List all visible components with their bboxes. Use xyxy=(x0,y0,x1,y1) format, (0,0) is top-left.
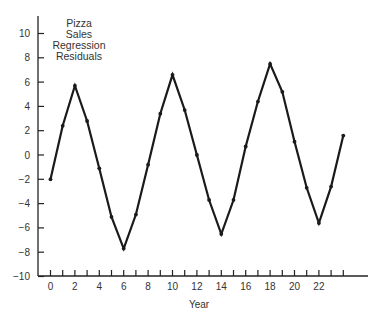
data-point xyxy=(61,124,65,128)
y-tick-label: 10 xyxy=(19,28,31,39)
x-tick-label: 20 xyxy=(289,281,301,292)
data-point xyxy=(158,112,162,116)
x-axis-label: Year xyxy=(189,299,210,310)
residuals-line-chart: 1086420−2−4−6−8−10 0246810121416182022 P… xyxy=(0,0,387,313)
y-tick-label: 8 xyxy=(24,52,30,63)
data-point xyxy=(134,213,138,217)
x-tick-label: 10 xyxy=(167,281,179,292)
y-tick-label: 6 xyxy=(24,77,30,88)
y-tick-label: −8 xyxy=(19,247,31,258)
chart-title-line: Residuals xyxy=(56,50,102,62)
data-point xyxy=(97,166,101,170)
x-tick-label: 16 xyxy=(240,281,252,292)
data-point xyxy=(207,198,211,202)
data-point xyxy=(146,163,150,167)
y-tick-label: 2 xyxy=(24,125,30,136)
data-point xyxy=(85,119,89,123)
data-point xyxy=(305,186,309,190)
data-point xyxy=(183,108,187,112)
y-tick-label: 0 xyxy=(24,150,30,161)
x-tick-label: 2 xyxy=(72,281,78,292)
y-tick-label: −10 xyxy=(13,271,30,282)
data-point xyxy=(219,232,223,236)
x-tick-label: 8 xyxy=(145,281,151,292)
data-point xyxy=(195,153,199,157)
data-point xyxy=(73,84,77,88)
data-point xyxy=(329,185,333,189)
data-point xyxy=(171,73,175,77)
y-axis: 1086420−2−4−6−8−10 xyxy=(13,16,44,282)
data-point xyxy=(232,198,236,202)
data-point xyxy=(317,221,321,225)
data-point-markers xyxy=(49,62,346,250)
y-tick-label: −2 xyxy=(19,174,31,185)
x-tick-label: 6 xyxy=(121,281,127,292)
x-tick-label: 0 xyxy=(48,281,54,292)
data-point xyxy=(280,90,284,94)
x-tick-label: 22 xyxy=(313,281,325,292)
y-tick-label: 4 xyxy=(24,101,30,112)
x-axis: 0246810121416182022 xyxy=(38,270,368,292)
data-point xyxy=(122,247,126,251)
data-point xyxy=(256,100,260,104)
chart-title: PizzaSalesRegressionResiduals xyxy=(52,17,105,62)
data-point xyxy=(49,177,53,181)
data-point xyxy=(244,145,248,149)
x-tick-label: 14 xyxy=(216,281,228,292)
data-point xyxy=(293,140,297,144)
data-point xyxy=(268,62,272,66)
x-tick-label: 4 xyxy=(97,281,103,292)
y-tick-label: −4 xyxy=(19,198,31,209)
data-point xyxy=(341,134,345,138)
y-tick-label: −6 xyxy=(19,222,31,233)
x-tick-label: 18 xyxy=(265,281,277,292)
x-tick-label: 12 xyxy=(191,281,203,292)
data-point xyxy=(110,215,114,219)
